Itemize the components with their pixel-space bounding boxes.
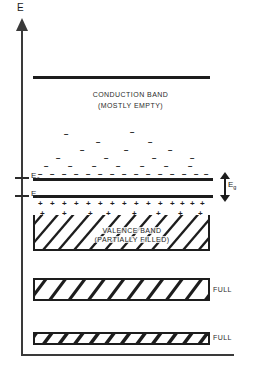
electron-symbol: − (56, 155, 61, 163)
hole-symbol: + (98, 200, 103, 208)
conduction-band-top-line (33, 76, 210, 79)
electron-symbol: − (190, 155, 195, 163)
hole-symbol: + (190, 200, 195, 208)
full-band-lower-label: FULL (213, 334, 232, 341)
band-gap-arrow-down-icon (220, 195, 230, 202)
valence-band-subtitle: (PARTIALLY FILLED) (94, 236, 171, 243)
hatch-pattern-icon (33, 278, 210, 301)
electron-symbol: − (130, 129, 135, 137)
energy-axis-vertical (21, 26, 23, 356)
full-band-upper-hatch (33, 278, 210, 301)
valence-band-title: VALENCE BAND (102, 227, 163, 234)
axis-baseline-horizontal (21, 354, 234, 356)
electron-symbol: − (188, 163, 193, 171)
hatch-pattern-icon (33, 332, 210, 345)
hole-symbol: + (200, 200, 205, 208)
energy-band-diagram: E CONDUCTION BAND (MOSTLY EMPTY) −−−−−−−… (0, 0, 256, 373)
full-band-lower-hatch (33, 332, 210, 345)
ev-label: Ev (31, 189, 40, 199)
electron-symbol: − (64, 131, 69, 139)
electron-symbol: − (80, 147, 85, 155)
hole-symbol: + (38, 200, 43, 208)
valence-band-edge-line (33, 195, 213, 198)
electron-symbol: − (44, 163, 49, 171)
ec-label: Ec (31, 171, 40, 181)
electron-symbol: − (168, 147, 173, 155)
electron-symbol: − (124, 147, 129, 155)
energy-axis-label: E (17, 2, 24, 13)
eg-label: Eg (228, 180, 236, 190)
hole-symbol: + (86, 200, 91, 208)
hole-symbol: + (110, 200, 115, 208)
conduction-band-title: CONDUCTION BAND (63, 91, 198, 98)
band-gap-arrow-up-icon (220, 172, 230, 179)
electron-symbol: − (140, 163, 145, 171)
hole-symbol: + (122, 200, 127, 208)
valence-band-caption: VALENCE BAND (PARTIALLY FILLED) (62, 226, 202, 244)
hole-symbol: + (62, 200, 67, 208)
ec-axis-tick (15, 177, 29, 179)
electron-symbol: − (104, 155, 109, 163)
conduction-band-subtitle: (MOSTLY EMPTY) (63, 102, 198, 109)
hole-symbol: + (158, 200, 163, 208)
hole-symbol: + (134, 200, 139, 208)
electron-symbol: − (152, 155, 157, 163)
hole-symbol: + (180, 200, 185, 208)
electron-symbol: − (148, 139, 153, 147)
electron-symbol: − (116, 163, 121, 171)
electron-symbol: − (92, 163, 97, 171)
electron-symbol: − (164, 163, 169, 171)
full-band-upper-label: FULL (213, 286, 232, 293)
hole-symbol: + (146, 200, 151, 208)
hole-symbol: + (50, 200, 55, 208)
conduction-band-edge-line (33, 178, 213, 181)
electron-symbol: − (68, 163, 73, 171)
hole-symbol: + (74, 200, 79, 208)
electron-symbol: − (96, 139, 101, 147)
ev-axis-tick (15, 195, 29, 197)
band-gap-annotation: Eg (214, 172, 240, 202)
hole-symbol: + (170, 200, 175, 208)
